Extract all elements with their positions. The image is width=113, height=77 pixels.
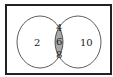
right-only-value: 10 [80,37,93,48]
intersection-value-2: 6 [56,36,62,47]
intersection-value-1: 4 [56,22,62,33]
venn-diagram: 2 4 6 8 10 [0,0,113,77]
intersection-value-3: 8 [56,49,62,60]
left-only-value: 2 [34,37,40,48]
